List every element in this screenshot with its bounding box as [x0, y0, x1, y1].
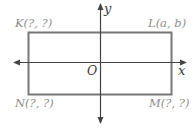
origin-label: O	[87, 65, 97, 78]
y-axis-label: y	[104, 2, 111, 15]
vertex-m-label: M(?, ?)	[149, 98, 189, 110]
x-axis-label: x	[178, 64, 185, 77]
coordinate-plane-diagram: y x O K(?, ?) L(a, b) M(?, ?) N(?, ?)	[0, 0, 196, 128]
vertex-k-label: K(?, ?)	[15, 18, 52, 30]
vertex-l-label: L(a, b)	[148, 18, 186, 30]
vertex-n-label: N(?, ?)	[15, 98, 54, 110]
